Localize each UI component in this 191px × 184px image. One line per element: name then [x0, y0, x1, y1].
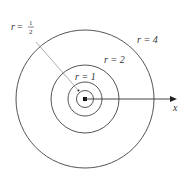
leader-line-r-half: [36, 42, 78, 90]
svg-text:1: 1: [29, 19, 33, 27]
svg-text:=: =: [17, 21, 23, 32]
svg-text:r: r: [11, 21, 15, 32]
label-r-4: r = 4: [137, 34, 158, 45]
svg-text:2: 2: [29, 28, 33, 36]
label-r-1: r = 1: [75, 71, 96, 82]
axis-label-x: x: [172, 102, 178, 113]
leader-dot: [78, 90, 80, 92]
label-r-half: r = 1 2: [11, 19, 34, 36]
label-r-2: r = 2: [104, 54, 125, 65]
concentric-circles-diagram: r = 1 2 r = 1 r = 2 r = 4 x: [0, 0, 191, 184]
